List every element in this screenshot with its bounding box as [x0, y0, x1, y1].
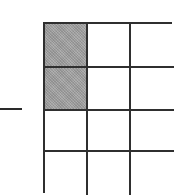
- grid-cell-empty: [88, 111, 131, 152]
- grid-cell-shaded: [45, 68, 88, 111]
- grid-cell-empty: [131, 24, 174, 68]
- grid-cell-empty: [88, 68, 131, 111]
- grid-cell-empty: [131, 152, 174, 195]
- grid-cell-empty: [88, 24, 131, 68]
- grid-cell-empty: [45, 111, 88, 152]
- grid-cell-shaded: [45, 24, 88, 68]
- grid-cell-empty: [131, 111, 174, 152]
- fraction-grid: [43, 22, 172, 193]
- minus-icon: [0, 108, 22, 110]
- grid-cell-empty: [131, 68, 174, 111]
- grid-cell-empty: [88, 152, 131, 195]
- grid-cell-empty: [45, 152, 88, 195]
